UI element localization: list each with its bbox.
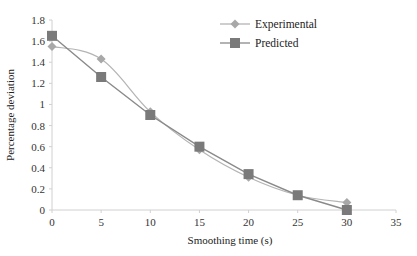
series-predicted: [47, 31, 352, 215]
x-tick-label: 25: [292, 216, 304, 228]
square-marker: [244, 169, 254, 179]
legend-label: Predicted: [255, 37, 299, 49]
series-line: [52, 36, 347, 210]
y-tick-label: 1.2: [31, 77, 45, 89]
square-marker: [96, 72, 106, 82]
y-tick-label: 0: [40, 204, 46, 216]
legend-item-experimental: Experimental: [220, 18, 317, 31]
y-tick-label: 1.6: [31, 35, 45, 47]
legend-item-predicted: Predicted: [220, 37, 299, 49]
y-tick-label: 0.6: [31, 141, 45, 153]
y-tick-label: 1.4: [31, 56, 45, 68]
x-tick-label: 15: [194, 216, 206, 228]
series-experimental: [48, 42, 352, 207]
axes: 00.20.40.60.811.21.41.61.805101520253035: [31, 14, 402, 228]
x-tick-label: 0: [49, 216, 55, 228]
x-tick-label: 20: [243, 216, 255, 228]
legend-label: Experimental: [255, 18, 317, 31]
y-tick-label: 0.4: [31, 162, 45, 174]
diamond-marker: [97, 55, 106, 64]
diamond-marker: [231, 20, 240, 29]
y-axis-title: Percentage deviation: [4, 69, 16, 161]
y-tick-label: 0.8: [31, 120, 45, 132]
x-tick-label: 30: [341, 216, 353, 228]
square-marker: [194, 142, 204, 152]
series-line: [52, 46, 347, 202]
x-tick-label: 10: [145, 216, 157, 228]
legend: ExperimentalPredicted: [220, 18, 317, 49]
line-chart: 00.20.40.60.811.21.41.61.805101520253035…: [0, 0, 417, 256]
square-marker: [230, 38, 240, 48]
x-tick-label: 5: [98, 216, 104, 228]
x-axis-title: Smoothing time (s): [188, 234, 273, 247]
square-marker: [145, 110, 155, 120]
series-group: [47, 31, 352, 215]
square-marker: [47, 31, 57, 41]
square-marker: [342, 205, 352, 215]
x-tick-label: 35: [391, 216, 403, 228]
y-tick-label: 1.8: [31, 14, 45, 26]
y-tick-label: 0.2: [31, 183, 45, 195]
y-tick-label: 1: [40, 98, 46, 110]
diamond-marker: [48, 42, 57, 51]
square-marker: [293, 190, 303, 200]
